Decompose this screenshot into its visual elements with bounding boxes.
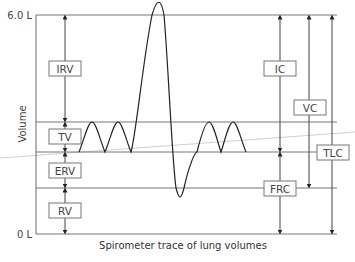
y-top-label: 6.0 L [7, 10, 32, 21]
irv-label: IRV [56, 63, 74, 75]
spirometer-trace [79, 2, 246, 197]
diagram-caption: Spirometer trace of lung volumes [99, 240, 267, 251]
erv-label: ERV [55, 165, 76, 177]
rv-label: RV [58, 205, 73, 217]
tlc-label: TLC [322, 147, 343, 159]
y-axis-label: Volume [17, 105, 28, 142]
ic-label: IC [275, 63, 285, 75]
tv-label: TV [57, 131, 72, 143]
frc-label: FRC [270, 183, 290, 195]
spirometer-diagram: IRV TV ERV RV IC VC TLC FRC 6.0 L 0 L Vo… [0, 0, 355, 262]
y-bottom-label: 0 L [17, 229, 33, 240]
vc-label: VC [303, 102, 318, 114]
